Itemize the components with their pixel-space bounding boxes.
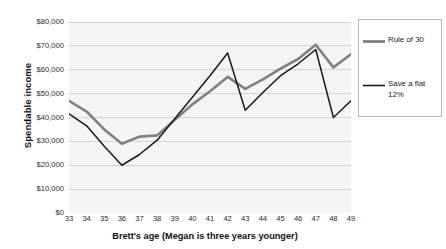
series-line xyxy=(69,49,351,165)
plot-svg xyxy=(69,22,351,213)
legend-swatch-icon xyxy=(363,83,385,88)
y-axis-tick-labels: $0$10,000$20,000$30,000$40,000$50,000$60… xyxy=(0,0,64,249)
y-axis-tick-label: $50,000 xyxy=(6,90,64,98)
x-axis-tick-labels: 3334353637383940414243444546474849 xyxy=(69,215,351,229)
line-chart: Spendable income $0$10,000$20,000$30,000… xyxy=(0,0,446,249)
legend-entry-rule-of-30: Rule of 30 xyxy=(359,35,443,46)
y-axis-tick-label: $60,000 xyxy=(6,66,64,74)
y-axis-tick-label: $40,000 xyxy=(6,114,64,122)
legend-label: Save a flat 12% xyxy=(388,79,443,100)
x-axis-title: Brett's age (Megan is three years younge… xyxy=(40,231,370,241)
y-axis-tick-label: $30,000 xyxy=(6,137,64,145)
legend-swatch-icon xyxy=(363,39,385,44)
x-axis-tick-label: 49 xyxy=(341,215,361,223)
y-axis-tick-label: $70,000 xyxy=(6,42,64,50)
series-line xyxy=(69,45,351,144)
legend-entry-save-a-flat-12: Save a flat 12% xyxy=(359,79,443,100)
y-axis-tick-label: $10,000 xyxy=(6,185,64,193)
y-axis-tick-label: $20,000 xyxy=(6,161,64,169)
y-axis-tick-label: $80,000 xyxy=(6,18,64,26)
chart-legend: Rule of 30 Save a flat 12% xyxy=(358,19,442,117)
plot-area xyxy=(69,22,351,213)
legend-label: Rule of 30 xyxy=(388,35,443,46)
y-axis-tick-label: $0 xyxy=(6,209,64,217)
